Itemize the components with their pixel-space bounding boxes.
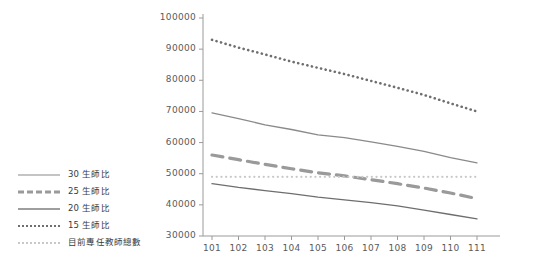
y-axis-tick-label: 70000 — [144, 105, 196, 115]
chart-svg — [0, 0, 543, 267]
x-axis-tick-label: 102 — [226, 243, 252, 253]
chart-plot-area: 3000040000500006000070000800009000010000… — [0, 0, 543, 267]
x-axis-tick-label: 111 — [464, 243, 490, 253]
chart-series-line — [212, 40, 477, 112]
x-axis-tick-label: 106 — [332, 243, 358, 253]
y-axis-tick-label: 40000 — [144, 199, 196, 209]
x-axis-tick-label: 101 — [199, 243, 225, 253]
chart-series-line — [212, 113, 477, 163]
x-axis-tick-label: 109 — [411, 243, 437, 253]
x-axis-tick-label: 108 — [385, 243, 411, 253]
x-axis-tick-label: 104 — [279, 243, 305, 253]
y-axis-tick-label: 50000 — [144, 168, 196, 178]
chart-root: 30 生師比25 生師比20 生師比15 生師比目前專任教師總數 3000040… — [0, 0, 543, 267]
x-axis-tick-label: 105 — [305, 243, 331, 253]
chart-series-line — [212, 184, 477, 219]
y-axis-tick-label: 30000 — [144, 230, 196, 240]
x-axis-tick-label: 107 — [358, 243, 384, 253]
y-axis-tick-label: 100000 — [144, 12, 196, 22]
x-axis-tick-label: 110 — [438, 243, 464, 253]
x-axis-tick-label: 103 — [252, 243, 278, 253]
y-axis-tick-label: 80000 — [144, 74, 196, 84]
y-axis-tick-label: 60000 — [144, 137, 196, 147]
y-axis-tick-label: 90000 — [144, 43, 196, 53]
